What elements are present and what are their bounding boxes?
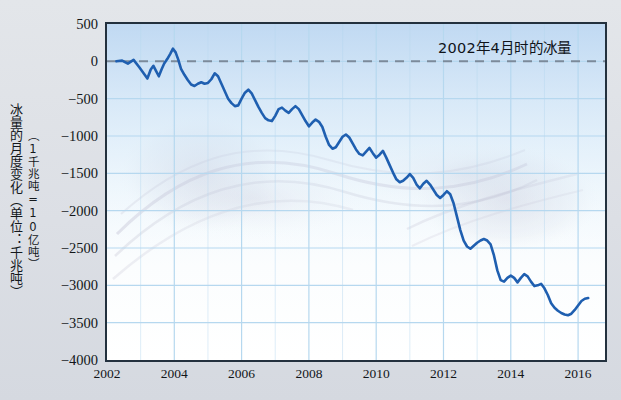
y-tick-neg2000: −2000 xyxy=(0,202,98,219)
chart-page: 冰量的月度变化（单位：千兆吨） （1千兆吨=10亿吨） 5000−500−100… xyxy=(0,0,621,400)
x-tick-2008: 2008 xyxy=(295,366,322,382)
y-tick-neg3500: −3500 xyxy=(0,314,98,331)
x-tick-2004: 2004 xyxy=(161,366,188,382)
x-tick-2006: 2006 xyxy=(228,366,255,382)
reference-line-annotation: 2002年4月时的冰量 xyxy=(438,36,571,57)
y-tick-neg1000: −1000 xyxy=(0,128,98,145)
x-tick-2016: 2016 xyxy=(565,366,592,382)
y-tick-neg4000: −4000 xyxy=(0,352,98,369)
x-tick-2010: 2010 xyxy=(363,366,390,382)
y-tick-neg1500: −1500 xyxy=(0,165,98,182)
x-tick-2012: 2012 xyxy=(430,366,457,382)
x-tick-2014: 2014 xyxy=(497,366,524,382)
y-tick-500: 500 xyxy=(0,16,98,33)
y-tick-neg2500: −2500 xyxy=(0,240,98,257)
y-tick-neg500: −500 xyxy=(0,90,98,107)
chart-svg xyxy=(107,24,605,360)
x-tick-2002: 2002 xyxy=(94,366,121,382)
plot-area xyxy=(105,22,607,362)
y-tick-neg3000: −3000 xyxy=(0,277,98,294)
y-tick-0: 0 xyxy=(0,53,98,70)
